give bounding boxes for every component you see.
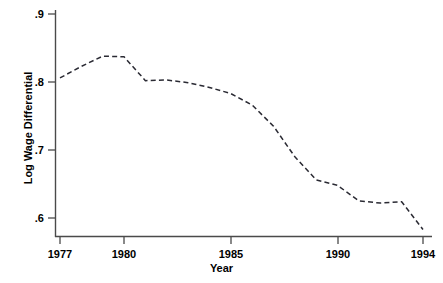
x-tick-labels: 1977 1980 1985 1990 1994: [48, 248, 436, 260]
chart-figure: .9 .8 .7 .6 1977 1980 1985 1990 1994 Log…: [0, 0, 443, 283]
y-tick-marks: [48, 14, 55, 218]
data-series-line: [60, 56, 423, 229]
x-tick-marks: [60, 237, 423, 244]
x-tick-label: 1994: [411, 248, 436, 260]
y-tick-label: .6: [35, 212, 44, 224]
x-tick-label: 1977: [48, 248, 72, 260]
plot-area: .9 .8 .7 .6 1977 1980 1985 1990 1994: [0, 0, 443, 283]
y-tick-label: .7: [35, 144, 44, 156]
x-axis-title: Year: [0, 262, 443, 274]
y-tick-label: .8: [35, 76, 44, 88]
y-tick-label: .9: [35, 8, 44, 20]
x-tick-label: 1990: [326, 248, 350, 260]
y-tick-labels: .9 .8 .7 .6: [35, 8, 44, 224]
x-tick-label: 1980: [112, 248, 136, 260]
y-axis-title: Log Wage Differential: [22, 48, 34, 208]
x-tick-label: 1985: [219, 248, 243, 260]
